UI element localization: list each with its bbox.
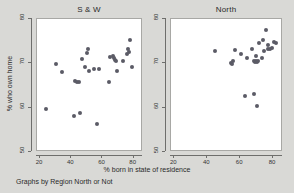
scatter-point <box>78 111 82 115</box>
scatter-point <box>213 49 217 53</box>
x-axis-tick <box>206 155 207 158</box>
panel-title-right: North <box>170 5 282 14</box>
plot-area-left <box>36 18 142 151</box>
x-axis-tick-label: 20 <box>163 159 183 165</box>
x-axis-tick <box>272 155 273 158</box>
y-axis-tick-label: 50 <box>153 144 159 156</box>
y-axis-tick-label: 50 <box>19 144 25 156</box>
scatter-point <box>60 70 64 74</box>
figure-caption: Graphs by Region North or Not <box>16 178 113 185</box>
x-axis-tick <box>239 155 240 158</box>
y-axis-tick <box>28 151 31 152</box>
scatter-point <box>233 48 237 52</box>
scatter-point <box>87 69 91 73</box>
y-axis-title: % who own home <box>6 49 13 119</box>
x-axis-tick <box>173 155 174 158</box>
x-axis-line <box>170 155 282 156</box>
y-axis-tick <box>162 62 165 63</box>
x-axis-tick <box>101 155 102 158</box>
scatter-point <box>77 80 81 84</box>
y-axis-tick-label: 60 <box>19 100 25 112</box>
scatter-point <box>261 38 265 42</box>
y-axis-tick-label: 70 <box>19 55 25 67</box>
scatter-point <box>257 41 261 45</box>
x-axis-tick-label: 20 <box>29 159 49 165</box>
chart-screenshot: S & W North 2040608050607080204060805060… <box>0 0 294 193</box>
scatter-point <box>54 62 58 66</box>
y-axis-tick <box>28 107 31 108</box>
figure-canvas: S & W North 2040608050607080204060805060… <box>0 0 294 193</box>
x-axis-tick <box>39 155 40 158</box>
x-axis-tick-label: 40 <box>60 159 80 165</box>
y-axis-tick-label: 60 <box>153 100 159 112</box>
x-axis-tick-label: 60 <box>91 159 111 165</box>
y-axis-line <box>165 18 166 151</box>
y-axis-line <box>31 18 32 151</box>
scatter-point <box>264 28 268 32</box>
y-axis-tick-label: 80 <box>19 11 25 23</box>
plot-area-right <box>170 18 282 151</box>
x-axis-tick-label: 40 <box>196 159 216 165</box>
scatter-point <box>252 92 256 96</box>
y-axis-tick-label: 80 <box>153 11 159 23</box>
x-axis-title: % born in state of residence <box>0 166 294 173</box>
scatter-point <box>127 50 131 54</box>
scatter-point <box>92 67 96 71</box>
scatter-point <box>107 80 111 84</box>
panel-title-left: S & W <box>36 5 142 14</box>
y-axis-tick <box>162 151 165 152</box>
x-axis-tick <box>133 155 134 158</box>
scatter-point <box>255 104 259 108</box>
scatter-point <box>86 47 90 51</box>
x-axis-tick-label: 80 <box>262 159 282 165</box>
x-axis-tick <box>70 155 71 158</box>
scatter-point <box>260 56 264 60</box>
scatter-point <box>128 38 132 42</box>
x-axis-tick-label: 60 <box>229 159 249 165</box>
y-axis-tick <box>28 18 31 19</box>
scatter-point <box>231 59 235 63</box>
x-axis-line <box>36 155 142 156</box>
x-axis-tick-label: 80 <box>123 159 143 165</box>
scatter-point <box>85 51 89 55</box>
scatter-point <box>274 41 278 45</box>
y-axis-tick <box>162 18 165 19</box>
y-axis-tick-label: 70 <box>153 55 159 67</box>
y-axis-tick <box>28 62 31 63</box>
scatter-point <box>97 67 101 71</box>
scatter-point <box>72 114 76 118</box>
scatter-point <box>80 57 84 61</box>
y-axis-tick <box>162 107 165 108</box>
